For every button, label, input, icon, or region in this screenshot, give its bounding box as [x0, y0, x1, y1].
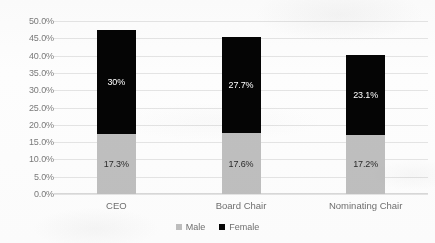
y-axis-tick-label: 35.0% — [0, 68, 54, 78]
bar-stack[interactable]: 23.1%17.2% — [346, 55, 385, 194]
y-axis-tick-label: 15.0% — [0, 137, 54, 147]
bar-value-label: 17.2% — [353, 159, 378, 169]
gridline — [54, 194, 428, 195]
legend-label-male: Male — [186, 222, 206, 232]
bar-value-label: 30% — [107, 77, 125, 87]
legend-label-female: Female — [229, 222, 259, 232]
plot-area: 30%17.3%27.7%17.6%23.1%17.2% — [54, 21, 428, 194]
legend-item-female[interactable]: Female — [219, 222, 259, 232]
y-axis-tick-label: 5.0% — [0, 172, 54, 182]
bar-value-label: 17.3% — [104, 159, 129, 169]
bar-value-label: 23.1% — [353, 90, 378, 100]
y-axis-tick-label: 45.0% — [0, 33, 54, 43]
legend-swatch-male-icon — [176, 224, 182, 230]
category-label: CEO — [106, 200, 127, 211]
bar-value-label: 27.7% — [228, 80, 253, 90]
chart-legend: Male Female — [0, 222, 435, 232]
category-label: Board Chair — [216, 200, 267, 211]
y-axis-tick-label: 10.0% — [0, 154, 54, 164]
stacked-bar-chart: 30%17.3%27.7%17.6%23.1%17.2% 0.0%5.0%10.… — [0, 0, 435, 243]
bar-segment-male[interactable]: 17.6% — [222, 133, 261, 194]
bar-value-label: 17.6% — [228, 159, 253, 169]
bar-stack[interactable]: 30%17.3% — [97, 30, 136, 194]
y-axis-tick-label: 40.0% — [0, 51, 54, 61]
bar-stack[interactable]: 27.7%17.6% — [222, 37, 261, 194]
y-axis-tick-label: 30.0% — [0, 85, 54, 95]
bar-segment-male[interactable]: 17.2% — [346, 135, 385, 195]
legend-item-male[interactable]: Male — [176, 222, 206, 232]
bar-segment-male[interactable]: 17.3% — [97, 134, 136, 194]
legend-swatch-female-icon — [219, 224, 225, 230]
y-axis-tick-label: 20.0% — [0, 120, 54, 130]
bar-segment-female[interactable]: 27.7% — [222, 37, 261, 133]
bar-segment-female[interactable]: 23.1% — [346, 55, 385, 135]
y-axis-tick-label: 0.0% — [0, 189, 54, 199]
y-axis-tick-label: 25.0% — [0, 103, 54, 113]
bar-segment-female[interactable]: 30% — [97, 30, 136, 134]
category-label: Nominating Chair — [329, 200, 402, 211]
gridline — [54, 21, 428, 22]
y-axis-tick-label: 50.0% — [0, 16, 54, 26]
